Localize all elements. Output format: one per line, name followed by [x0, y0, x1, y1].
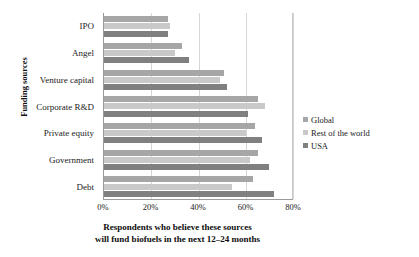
bar-global-private-equity	[104, 123, 255, 129]
bar-chart: Funding sources IPO Angel Venture capita…	[0, 0, 419, 257]
bar-global-corporate-r-d	[104, 96, 258, 102]
plot-area	[103, 13, 293, 200]
bar-group-angel	[104, 40, 293, 67]
bar-usa-ipo	[104, 31, 168, 37]
category-axis-labels: IPO Angel Venture capital Corporate R&D …	[0, 13, 99, 200]
bar-group-debt	[104, 173, 293, 200]
legend-item-global: Global	[303, 113, 415, 126]
bar-row	[104, 130, 293, 136]
bar-row	[104, 70, 293, 76]
x-axis-title-line1: Respondents who believe these sources	[40, 221, 315, 233]
category-label-debt: Debt	[0, 173, 99, 200]
bar-row	[104, 96, 293, 102]
bar-rest-of-the-world-debt	[104, 184, 232, 190]
legend-item-usa: USA	[303, 139, 415, 152]
bar-usa-venture-capital	[104, 84, 227, 90]
bar-row	[104, 157, 293, 163]
bar-row	[104, 150, 293, 156]
bar-row	[104, 50, 293, 56]
bar-row	[104, 191, 293, 197]
bar-row	[104, 103, 293, 109]
bar-global-ipo	[104, 16, 168, 22]
bar-rest-of-the-world-corporate-r-d	[104, 103, 265, 109]
bar-usa-private-equity	[104, 137, 262, 143]
bar-global-government	[104, 150, 258, 156]
bar-row	[104, 31, 293, 37]
bar-global-angel	[104, 43, 182, 49]
bar-rest-of-the-world-angel	[104, 50, 175, 56]
bar-group-private-equity	[104, 120, 293, 147]
x-tick-label: 80%	[285, 202, 301, 212]
bar-group-government	[104, 147, 293, 174]
category-label-angel: Angel	[0, 40, 99, 67]
legend-swatch-icon-rest-of-the-world	[303, 130, 308, 135]
chart-legend: Global Rest of the world USA	[303, 113, 415, 152]
x-axis-title: Respondents who believe these sources wi…	[40, 221, 315, 245]
bar-usa-debt	[104, 191, 274, 197]
bar-group-ipo	[104, 13, 293, 40]
bar-global-venture-capital	[104, 70, 224, 76]
bar-global-debt	[104, 176, 253, 182]
x-tick-label: 40%	[190, 202, 206, 212]
x-tick-label: 20%	[143, 202, 159, 212]
bar-row	[104, 23, 293, 29]
bar-row	[104, 137, 293, 143]
x-tick-label: 60%	[238, 202, 254, 212]
x-axis-title-line2: will fund biofuels in the next 12–24 mon…	[40, 233, 315, 245]
bar-row	[104, 57, 293, 63]
x-axis-tick-labels: 0%20%40%60%80%	[103, 202, 293, 216]
bar-row	[104, 184, 293, 190]
legend-label-usa: USA	[311, 141, 328, 151]
bar-row	[104, 43, 293, 49]
bar-rest-of-the-world-ipo	[104, 23, 170, 29]
category-label-private-equity: Private equity	[0, 120, 99, 147]
bar-usa-government	[104, 164, 269, 170]
category-label-ipo: IPO	[0, 13, 99, 40]
bar-usa-angel	[104, 57, 189, 63]
bar-usa-corporate-r-d	[104, 111, 248, 117]
gridline-80	[293, 13, 294, 199]
legend-item-rest-of-the-world: Rest of the world	[303, 126, 415, 139]
bar-row	[104, 16, 293, 22]
bar-row	[104, 111, 293, 117]
legend-swatch-icon-usa	[303, 143, 308, 148]
bar-rest-of-the-world-private-equity	[104, 130, 246, 136]
bar-row	[104, 176, 293, 182]
category-label-venture-capital: Venture capital	[0, 66, 99, 93]
bar-group-corporate-r-d	[104, 93, 293, 120]
bar-row	[104, 77, 293, 83]
bar-row	[104, 164, 293, 170]
bar-group-venture-capital	[104, 66, 293, 93]
legend-swatch-icon-global	[303, 117, 308, 122]
bar-row	[104, 123, 293, 129]
legend-label-rest-of-the-world: Rest of the world	[311, 128, 370, 138]
x-tick-label: 0%	[97, 202, 108, 212]
category-label-corporate-rd: Corporate R&D	[0, 93, 99, 120]
bar-rest-of-the-world-government	[104, 157, 250, 163]
bar-row	[104, 84, 293, 90]
legend-label-global: Global	[311, 115, 334, 125]
category-label-government: Government	[0, 147, 99, 174]
bar-rest-of-the-world-venture-capital	[104, 77, 220, 83]
